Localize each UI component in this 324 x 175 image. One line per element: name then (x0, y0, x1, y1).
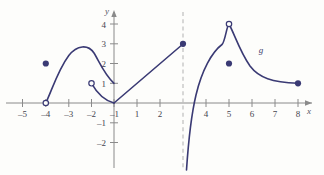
open-point-5-4 (226, 21, 231, 26)
x-tick-label-4: 4 (204, 109, 209, 119)
y-tick-label--2: –2 (96, 138, 106, 148)
y-tick-labels: –2 –1 1 2 3 4 (96, 20, 107, 149)
function-name-label: g (259, 45, 264, 55)
y-tick-label-4: 4 (102, 20, 107, 30)
y-tick-label-1: 1 (102, 79, 107, 89)
x-tick-label--1: –1 (109, 109, 119, 119)
x-tick-label-8: 8 (296, 109, 301, 119)
open-point--4-0 (43, 100, 48, 105)
y-axis-arrowhead (111, 10, 116, 17)
x-tick-label-5: 5 (227, 109, 232, 119)
open-points-layer (43, 21, 232, 105)
y-tick-label--1: –1 (96, 118, 106, 128)
closed-point-5-2 (226, 60, 232, 66)
x-axis-label: x (306, 106, 311, 116)
x-tick-label-1: 1 (135, 109, 140, 119)
y-tick-label-3: 3 (102, 39, 107, 49)
closed-point--4-2 (43, 60, 49, 66)
x-tick-labels: –5 –4 –3 –2 –1 1 2 4 5 6 7 8 (17, 109, 301, 119)
curve-segment-right-tail (229, 24, 298, 83)
curve-segment-left-hump (46, 47, 114, 103)
graph-figure: –5 –4 –3 –2 –1 1 2 4 5 6 7 8 –2 –1 1 2 3… (0, 0, 324, 175)
closed-point-3-3 (180, 41, 186, 47)
x-tick-label-2: 2 (158, 109, 163, 119)
curve-segment-asymptotic-branch (187, 24, 230, 170)
x-tick-label--2: –2 (86, 109, 96, 119)
y-axis-label: y (104, 6, 109, 16)
x-tick-label-7: 7 (273, 109, 278, 119)
open-point--1-1 (89, 81, 94, 86)
x-tick-label--3: –3 (63, 109, 74, 119)
closed-point-8-1 (295, 80, 301, 86)
function-graph-svg: –5 –4 –3 –2 –1 1 2 4 5 6 7 8 –2 –1 1 2 3… (0, 0, 324, 175)
x-tick-label-6: 6 (250, 109, 255, 119)
x-axis-arrowhead (305, 100, 312, 106)
curve-segment-ramp (114, 44, 183, 103)
x-tick-label--5: –5 (17, 109, 28, 119)
x-tick-label--4: –4 (40, 109, 51, 119)
